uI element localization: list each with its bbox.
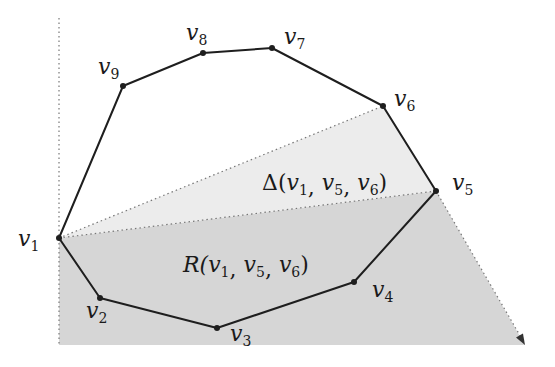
vertex-point-v5 [433,188,439,194]
polygon-diagram: v1v2v3v4v5v6v7v8v9 Δ(v1, v5, v6) R(v1, v… [0,0,555,367]
vertex-label-v8: v8 [186,20,207,48]
vertex-label-v5: v5 [452,170,473,198]
vertex-label-v6: v6 [394,86,415,114]
vertex-point-v6 [380,103,386,109]
vertex-point-v4 [351,279,357,285]
vertex-label-v1: v1 [18,226,39,254]
vertex-point-v8 [200,50,206,56]
vertex-label-v9: v9 [98,54,119,82]
vertex-label-v7: v7 [284,24,305,52]
vertex-point-v3 [214,325,220,331]
vertex-point-v7 [269,45,275,51]
vertex-point-v1 [56,235,62,241]
vertex-point-v9 [120,83,126,89]
